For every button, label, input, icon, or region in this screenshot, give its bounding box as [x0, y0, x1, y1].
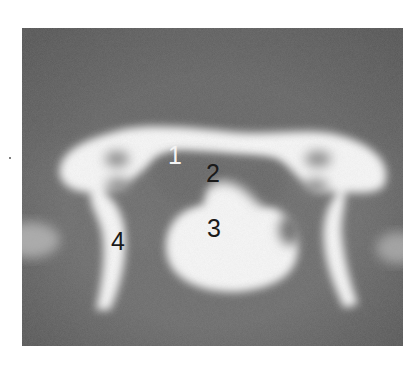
- stray-mark: [9, 157, 11, 159]
- label-1: 1: [168, 143, 182, 168]
- label-2: 2: [206, 161, 220, 186]
- ct-scan-image: 1 2 3 4: [22, 28, 403, 346]
- label-3: 3: [207, 216, 221, 241]
- label-4: 4: [111, 229, 125, 254]
- vertebra-illustration: [22, 28, 403, 346]
